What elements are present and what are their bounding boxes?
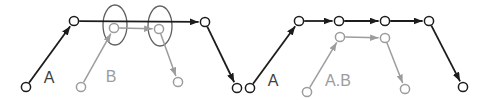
node-r4: [380, 16, 389, 25]
edge-arrow-LB2-LB3: [119, 28, 152, 29]
node-l2: [69, 16, 78, 25]
node-l1: [21, 82, 30, 91]
node-r3: [334, 16, 343, 25]
node-rb1: [302, 87, 311, 96]
node-rb2: [335, 32, 344, 41]
node-lb4: [173, 77, 182, 86]
edge-arrow-L3-L4: [207, 27, 234, 83]
node-r1: [245, 83, 254, 92]
diagram-stage: ABAA.B: [0, 0, 487, 100]
node-lb1: [76, 82, 85, 91]
node-r6: [458, 82, 467, 91]
edge-arrow-RB2-RB3: [345, 37, 378, 38]
edge-arrow-R5-R6: [431, 26, 460, 82]
node-r2: [294, 16, 303, 25]
node-rb3: [380, 33, 389, 42]
node-l4: [232, 83, 241, 92]
label-a-2: A: [268, 72, 279, 89]
node-lb2: [109, 23, 118, 32]
node-l3: [200, 17, 209, 26]
node-lb3: [154, 24, 163, 33]
node-r5: [424, 16, 433, 25]
label-a-b-3: A.B: [325, 72, 351, 89]
label-b-1: B: [106, 68, 117, 85]
node-link-diagram: ABAA.B: [0, 0, 487, 100]
edge-arrow-L2-L3: [79, 21, 198, 22]
node-rb4: [400, 84, 409, 93]
label-a-0: A: [44, 69, 55, 86]
edge-arrow-RB3-RB4: [387, 43, 403, 83]
